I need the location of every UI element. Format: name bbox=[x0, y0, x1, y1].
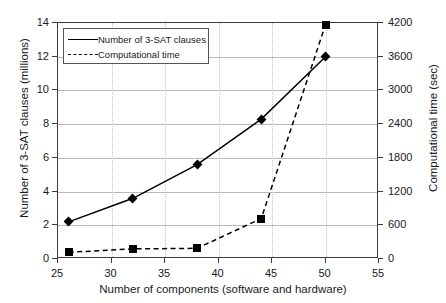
tick-label-right: 3000 bbox=[388, 84, 412, 95]
data-point bbox=[193, 244, 201, 252]
diamond-marker-icon bbox=[256, 114, 266, 124]
data-point bbox=[65, 218, 72, 225]
tick-label-right: 1800 bbox=[388, 152, 412, 163]
tick-label-left: 6 bbox=[43, 152, 49, 163]
tick-label-right: 600 bbox=[388, 219, 406, 230]
tick-label-left: 2 bbox=[43, 219, 49, 230]
tick-label-bottom: 30 bbox=[91, 268, 131, 279]
tick-label-bottom: 25 bbox=[37, 268, 77, 279]
diamond-marker-icon bbox=[128, 193, 138, 203]
tick-label-left: 4 bbox=[43, 186, 49, 197]
square-marker-icon bbox=[193, 244, 201, 252]
tick-label-bottom: 35 bbox=[144, 268, 184, 279]
y-axis-left-title: Number of 3-SAT clauses (millions) bbox=[18, 18, 30, 238]
legend-item-time: Computational time bbox=[68, 47, 204, 62]
tick-label-right: 4200 bbox=[388, 17, 412, 28]
data-point bbox=[129, 195, 136, 202]
tick-label-bottom: 50 bbox=[305, 268, 345, 279]
tick-label-right: 0 bbox=[388, 253, 394, 264]
diamond-marker-icon bbox=[192, 160, 202, 170]
legend-label-time: Computational time bbox=[98, 50, 180, 60]
y-axis-right-title: Computational time (sec) bbox=[427, 28, 439, 228]
diamond-marker-icon bbox=[64, 217, 74, 227]
square-marker-icon bbox=[322, 21, 330, 29]
legend-key-clauses bbox=[68, 34, 98, 45]
chart-figure: Number of 3-SAT clauses (millions) Compu… bbox=[0, 0, 446, 303]
square-marker-icon bbox=[257, 215, 265, 223]
legend-item-clauses: Number of 3-SAT clauses bbox=[68, 32, 204, 47]
data-point bbox=[129, 245, 137, 253]
data-point bbox=[322, 53, 329, 60]
legend-label-clauses: Number of 3-SAT clauses bbox=[98, 35, 206, 45]
chart-legend: Number of 3-SAT clauses Computational ti… bbox=[63, 28, 209, 64]
data-point bbox=[65, 248, 73, 256]
legend-key-time bbox=[68, 49, 98, 60]
tick-label-left: 12 bbox=[37, 51, 49, 62]
tick-label-bottom: 55 bbox=[358, 268, 398, 279]
data-point bbox=[258, 116, 265, 123]
data-point bbox=[194, 161, 201, 168]
tick-label-left: 8 bbox=[43, 118, 49, 129]
tick-label-bottom: 45 bbox=[251, 268, 291, 279]
tick-label-bottom: 40 bbox=[198, 268, 238, 279]
x-axis-title: Number of components (software and hardw… bbox=[0, 283, 446, 295]
tick-label-left: 10 bbox=[37, 84, 49, 95]
tick-label-left: 0 bbox=[43, 253, 49, 264]
tick-label-right: 2400 bbox=[388, 118, 412, 129]
diamond-marker-icon bbox=[321, 52, 331, 62]
square-marker-icon bbox=[65, 248, 73, 256]
data-point bbox=[257, 215, 265, 223]
data-point bbox=[322, 21, 330, 29]
tick-label-left: 14 bbox=[37, 17, 49, 28]
square-marker-icon bbox=[129, 245, 137, 253]
tick-label-right: 1200 bbox=[388, 186, 412, 197]
tick-label-right: 3600 bbox=[388, 51, 412, 62]
